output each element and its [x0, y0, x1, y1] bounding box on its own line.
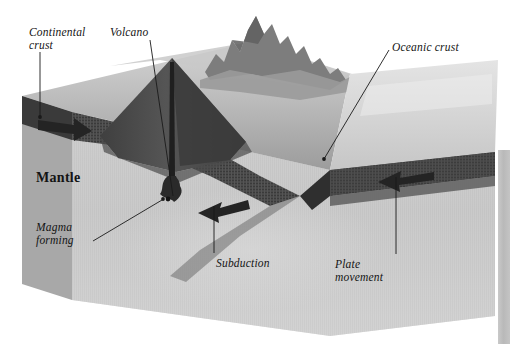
ocean-surface: [330, 60, 498, 170]
label-line: Continental: [29, 26, 86, 39]
label-line: crust: [29, 39, 86, 52]
leader-dot-oceanic: [322, 157, 326, 161]
label-plate-movement: Plate movement: [335, 258, 383, 283]
label-line: Plate: [335, 258, 383, 271]
label-magma-forming: Magma forming: [36, 221, 74, 246]
label-volcano: Volcano: [110, 26, 148, 39]
label-line: Subduction: [216, 257, 270, 270]
label-oceanic-crust: Oceanic crust: [392, 41, 459, 54]
label-continental-crust: Continental crust: [29, 26, 86, 51]
label-line: Mantle: [36, 172, 81, 185]
magma-conduit: [169, 62, 175, 176]
label-subduction: Subduction: [216, 257, 270, 270]
diagram-canvas: Continental crust Volcano Oceanic crust …: [0, 0, 510, 344]
leader-dot-magma: [161, 197, 165, 201]
magma-source-point: [166, 197, 171, 202]
label-line: forming: [36, 234, 74, 247]
leader-dot-continental: [38, 115, 42, 119]
mantle-heat-glow: [120, 188, 380, 312]
label-line: Magma: [36, 221, 74, 234]
label-mantle: Mantle: [36, 172, 81, 185]
page-edge-strip: [498, 150, 510, 344]
label-line: movement: [335, 271, 383, 284]
label-line: Volcano: [110, 26, 148, 39]
label-line: Oceanic crust: [392, 41, 459, 54]
